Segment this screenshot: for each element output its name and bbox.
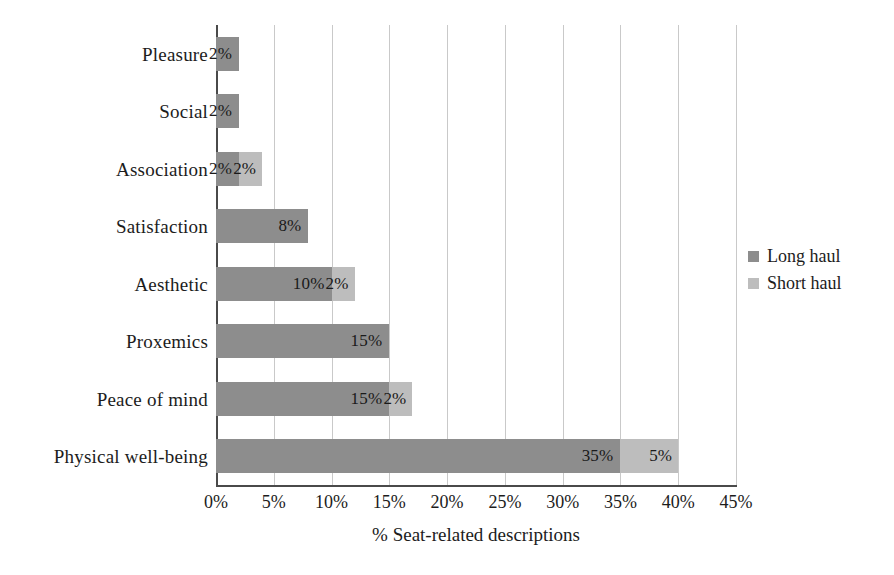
bar-value-label: 35% [582,446,621,466]
bar-band: 2%2% [216,140,736,198]
plot-area: 2%2%2%2%8%10%2%15%15%2%35%5% [216,25,736,485]
category-label: Pleasure [142,45,208,64]
bar-band: 2% [216,25,736,83]
x-tick-label: 0% [204,492,228,513]
x-axis-title: % Seat-related descriptions [216,524,736,546]
legend-item-short-haul[interactable]: Short haul [748,270,842,297]
x-tick-label: 25% [488,492,521,513]
x-tick-label: 35% [604,492,637,513]
short-haul-swatch-icon [748,278,759,289]
bar-segment-short-haul[interactable]: 2% [389,382,412,416]
bar-value-label: 2% [209,44,239,64]
chart-legend: Long haul Short haul [748,243,842,297]
category-label: Physical well-being [54,447,208,466]
bar-segment-long-haul[interactable]: 10% [216,267,332,301]
bar-band: 10%2% [216,255,736,313]
bar-stack[interactable]: 15%2% [216,382,412,416]
bar-value-label: 15% [351,331,390,351]
x-tick-label: 10% [315,492,348,513]
bar-value-label: 2% [209,101,239,121]
bar-stack[interactable]: 35%5% [216,439,678,473]
bar-segment-long-haul[interactable]: 8% [216,209,308,243]
legend-label-long-haul: Long haul [767,246,841,267]
legend-item-long-haul[interactable]: Long haul [748,243,842,270]
x-tick-label: 5% [262,492,286,513]
bar-stack[interactable]: 2% [216,37,239,71]
bar-value-label: 5% [649,446,678,466]
bar-segment-long-haul[interactable]: 2% [216,94,239,128]
category-label: Proxemics [126,332,208,351]
category-label: Peace of mind [97,390,208,409]
long-haul-swatch-icon [748,251,759,262]
category-label: Satisfaction [116,217,208,236]
bar-segment-long-haul[interactable]: 35% [216,439,620,473]
bar-band: 2% [216,83,736,141]
bar-stack[interactable]: 2%2% [216,152,262,186]
gridline [736,25,737,485]
bar-stack[interactable]: 8% [216,209,308,243]
category-label: Social [159,102,208,121]
x-tick-label: 15% [373,492,406,513]
bar-stack[interactable]: 15% [216,324,389,358]
bar-segment-short-haul[interactable]: 2% [239,152,262,186]
bar-band: 15%2% [216,370,736,428]
bar-stack[interactable]: 10%2% [216,267,355,301]
bar-segment-long-haul[interactable]: 15% [216,324,389,358]
category-label: Association [116,160,208,179]
bar-chart: 2%2%2%2%8%10%2%15%15%2%35%5% PleasureSoc… [0,0,894,575]
x-tick-label: 20% [431,492,464,513]
bar-band: 35%5% [216,428,736,486]
bar-segment-short-haul[interactable]: 5% [620,439,678,473]
bar-value-label: 8% [278,216,308,236]
bar-segment-short-haul[interactable]: 2% [332,267,355,301]
bar-segment-long-haul[interactable]: 2% [216,37,239,71]
x-tick-label: 30% [546,492,579,513]
legend-label-short-haul: Short haul [767,273,842,294]
category-label: Aesthetic [134,275,208,294]
bar-stack[interactable]: 2% [216,94,239,128]
bar-value-label: 2% [383,389,412,409]
bar-band: 15% [216,313,736,371]
x-tick-label: 45% [720,492,753,513]
bar-value-label: 2% [326,274,355,294]
bar-band: 8% [216,198,736,256]
bar-segment-long-haul[interactable]: 15% [216,382,389,416]
bar-value-label: 2% [233,159,262,179]
x-tick-label: 40% [662,492,695,513]
x-axis-line [216,485,737,487]
